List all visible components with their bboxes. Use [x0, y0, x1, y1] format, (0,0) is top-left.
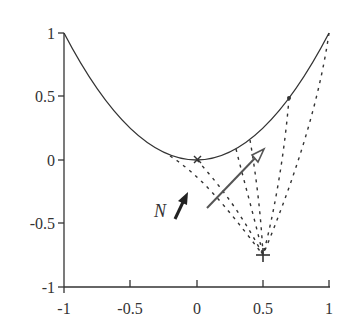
x-tick-label: -0.5 — [117, 300, 142, 317]
y-tick-label: -0.5 — [30, 215, 55, 232]
curve-point-marker — [287, 96, 291, 100]
y-tick-label: 0 — [47, 152, 55, 169]
arrow-label-n: N — [153, 201, 167, 221]
x-tick-label: 0.5 — [253, 300, 273, 317]
chart-svg: 1 0.5 0 -0.5 -1 -1 -0.5 0 0.5 1 — [0, 0, 354, 330]
chart-figure: 1 0.5 0 -0.5 -1 -1 -0.5 0 0.5 1 — [0, 0, 354, 330]
x-tick-label: 1 — [325, 300, 333, 317]
x-tick-label: 0 — [193, 300, 201, 317]
dashed-paths — [170, 33, 329, 255]
n-arrow — [175, 192, 188, 219]
y-tick-label: 1 — [47, 25, 55, 42]
dashed-path — [263, 98, 289, 255]
y-tick-label: 0.5 — [35, 88, 55, 105]
x-tick-label: -1 — [57, 300, 70, 317]
dashed-path — [170, 156, 263, 255]
x-tick-labels: -1 -0.5 0 0.5 1 — [57, 300, 333, 317]
arrowhead-icon — [178, 192, 188, 205]
dashed-path — [263, 33, 329, 255]
y-tick-label: -1 — [42, 279, 55, 296]
plus-marker — [256, 248, 270, 262]
y-tick-labels: 1 0.5 0 -0.5 -1 — [30, 25, 55, 296]
